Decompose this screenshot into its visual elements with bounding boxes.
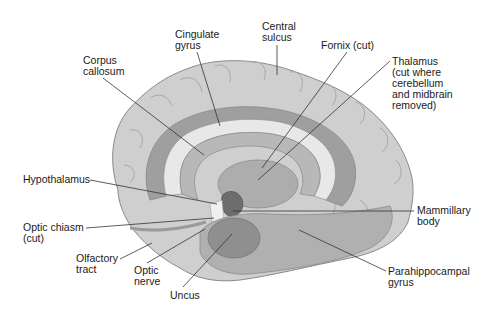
label-mammillary-body: Mammillarybody: [417, 205, 471, 227]
leader-line-olfactory-tract: [120, 243, 152, 259]
label-optic-chiasm: Optic chiasm(cut): [23, 222, 84, 244]
label-line: gyrus: [388, 277, 470, 288]
label-line: (cut): [23, 233, 84, 244]
label-line: tract: [76, 264, 118, 275]
label-line: Hypothalamus: [23, 174, 90, 185]
label-central-sulcus: Centralsulcus: [262, 21, 296, 43]
label-cingulate-gyrus: Cingulategyrus: [175, 29, 219, 51]
label-hypothalamus: Hypothalamus: [23, 174, 90, 185]
label-line: sulcus: [262, 32, 296, 43]
label-optic-nerve: Opticnerve: [134, 265, 160, 287]
label-line: gyrus: [175, 40, 219, 51]
label-line: body: [417, 216, 471, 227]
label-olfactory-tract: Olfactorytract: [76, 253, 118, 275]
label-parahippocampal-gyrus: Parahippocampalgyrus: [388, 266, 470, 288]
label-uncus: Uncus: [170, 290, 200, 301]
label-thalamus: Thalamus(cut wherecerebellumand midbrain…: [392, 56, 453, 111]
label-line: removed): [392, 100, 453, 111]
label-line: Uncus: [170, 290, 200, 301]
label-fornix: Fornix (cut): [321, 40, 374, 51]
label-line: nerve: [134, 276, 160, 287]
brain-diagram: CingulategyrusCentralsulcusFornix (cut)C…: [0, 0, 491, 311]
label-corpus-callosum: Corpuscallosum: [83, 55, 124, 77]
hypothalamus-region: [222, 192, 243, 217]
label-line: Fornix (cut): [321, 40, 374, 51]
label-line: callosum: [83, 66, 124, 77]
